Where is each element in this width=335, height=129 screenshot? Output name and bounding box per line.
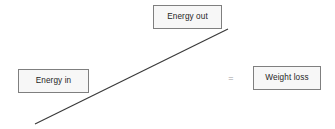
node-weight-loss[interactable]: Weight loss [253, 66, 321, 90]
node-energy-in-label: Energy in [36, 77, 72, 85]
node-energy-out[interactable]: Energy out [153, 5, 222, 29]
equals-operator-glyph: = [228, 74, 233, 83]
equals-operator: = [224, 71, 238, 85]
node-energy-out-label: Energy out [167, 13, 208, 21]
node-energy-in[interactable]: Energy in [18, 69, 89, 93]
node-weight-loss-label: Weight loss [265, 74, 308, 82]
diagram-canvas: Energy out Energy in = Weight loss [0, 0, 335, 129]
